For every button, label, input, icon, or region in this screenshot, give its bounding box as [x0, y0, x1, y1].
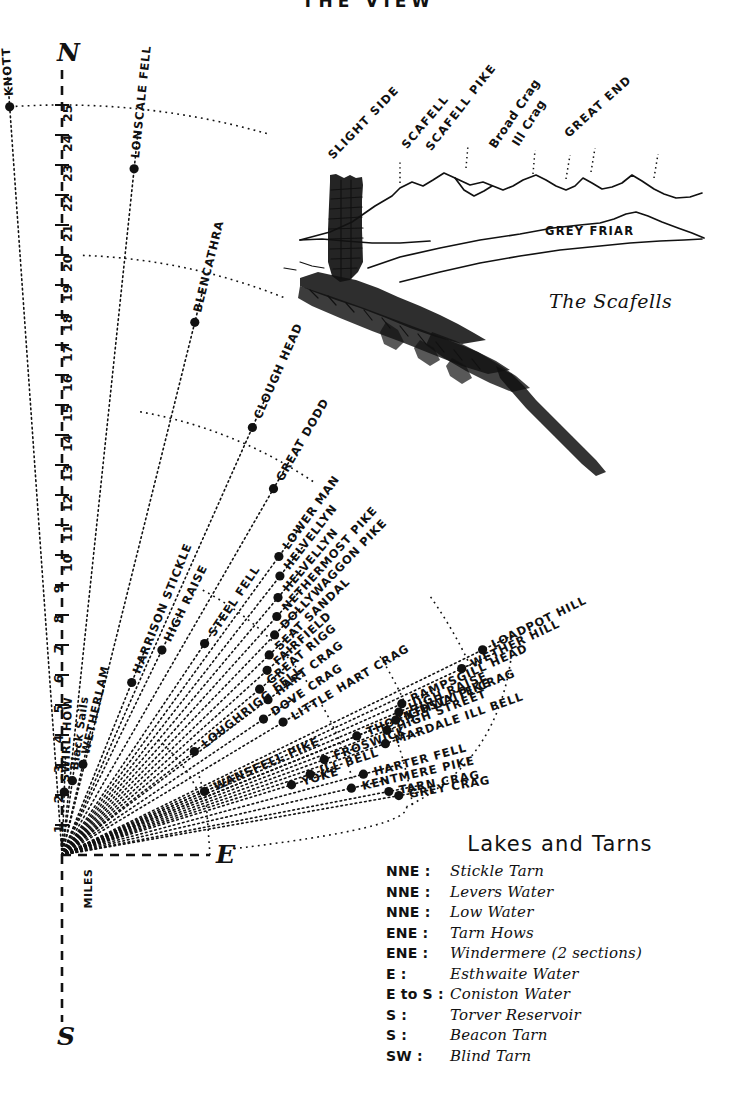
lakes-and-tarns-legend: Lakes and Tarns NNE :Stickle TarnNNE :Le… — [386, 832, 716, 1066]
grey-friar-label: GREY FRIAR — [545, 224, 634, 238]
legend-row: NNE :Stickle Tarn — [386, 861, 716, 882]
legend-row: ENE :Windermere (2 sections) — [386, 943, 716, 964]
legend-direction: E to S : — [386, 984, 450, 1005]
legend-water-name: Coniston Water — [450, 984, 570, 1005]
legend-water-name: Low Water — [450, 902, 534, 923]
legend-row: S :Beacon Tarn — [386, 1025, 716, 1046]
legend-water-name: Beacon Tarn — [450, 1025, 548, 1046]
legend-rows: NNE :Stickle TarnNNE :Levers WaterNNE :L… — [386, 861, 716, 1066]
legend-row: NNE :Low Water — [386, 902, 716, 923]
legend-direction: NNE : — [386, 882, 450, 903]
legend-row: NNE :Levers Water — [386, 882, 716, 903]
legend-direction: S : — [386, 1025, 450, 1046]
grey-friar-ridge — [368, 212, 704, 282]
legend-direction: NNE : — [386, 902, 450, 923]
legend-water-name: Stickle Tarn — [450, 861, 544, 882]
legend-water-name: Windermere (2 sections) — [450, 943, 642, 964]
cairn-tower — [328, 174, 363, 282]
legend-water-name: Torver Reservoir — [450, 1005, 581, 1026]
legend-water-name: Tarn Hows — [450, 923, 534, 944]
legend-direction: E : — [386, 964, 450, 985]
panorama-diagram: THE VIEW N E S 1234567891011121314151617… — [0, 0, 737, 1113]
scafells-caption: The Scafells — [549, 290, 672, 312]
legend-title: Lakes and Tarns — [386, 832, 716, 856]
legend-water-name: Esthwaite Water — [450, 964, 579, 985]
legend-direction: S : — [386, 1005, 450, 1026]
legend-direction: ENE : — [386, 943, 450, 964]
legend-row: SW :Blind Tarn — [386, 1046, 716, 1067]
legend-row: E to S :Coniston Water — [386, 984, 716, 1005]
legend-direction: NNE : — [386, 861, 450, 882]
legend-row: S :Torver Reservoir — [386, 1005, 716, 1026]
legend-direction: SW : — [386, 1046, 450, 1067]
legend-water-name: Blind Tarn — [450, 1046, 531, 1067]
legend-water-name: Levers Water — [450, 882, 553, 903]
legend-direction: ENE : — [386, 923, 450, 944]
legend-row: ENE :Tarn Hows — [386, 923, 716, 944]
legend-row: E :Esthwaite Water — [386, 964, 716, 985]
